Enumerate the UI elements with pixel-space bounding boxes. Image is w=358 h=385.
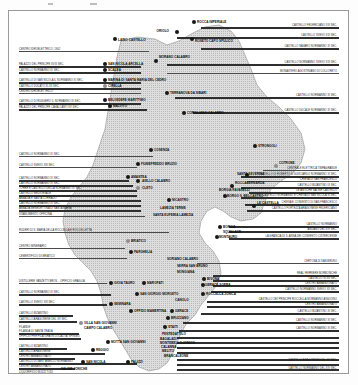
leader-line-left-0	[19, 51, 149, 52]
margin-label-left-33: CENTRO ABBANDONATO	[19, 365, 51, 368]
town-label-brancaleone: BRANCALEONE	[164, 355, 188, 358]
town-label-palizzi: PALIZZI	[131, 361, 143, 364]
town-label-campo-calabro: CAMPO CALABRO	[84, 327, 112, 330]
town-marker-13[interactable]	[149, 148, 153, 152]
margin-label-right-4: MONASTERO AGOSTINIANO DI COLLORETO	[280, 70, 337, 73]
margin-label-left-15: CASTELLO NORMANNO XI SEC.	[19, 202, 60, 205]
town-label-cotrone: COTRONE	[279, 162, 295, 165]
town-marker-11[interactable]	[108, 104, 112, 108]
town-label-aiello-calabro: AIELLO CALABRO	[142, 180, 170, 183]
leader-line-left-20	[19, 258, 127, 259]
town-marker-6[interactable]	[103, 68, 107, 72]
town-marker-43[interactable]	[126, 360, 130, 364]
town-marker-33[interactable]	[135, 292, 139, 296]
town-label-bruzzano: BRUZZANO	[171, 317, 189, 320]
town-marker-39[interactable]	[79, 321, 83, 325]
town-marker-16[interactable]	[274, 164, 278, 168]
leader-line-right-16	[229, 231, 339, 233]
margin-label-left-34: LIQUORIFICIO BOZZI TODI	[19, 371, 53, 374]
margin-label-left-27: FILANDA DI SANTA TRADA	[19, 330, 53, 333]
leader-line-right-29	[177, 342, 339, 344]
leader-line-left-9	[19, 167, 137, 168]
town-marker-30[interactable]	[109, 281, 113, 285]
town-label-motta-san-giovanni: MOTTA SAN GIOVANNI	[111, 341, 146, 344]
town-marker-27[interactable]	[126, 239, 130, 243]
town-marker-37[interactable]	[170, 309, 174, 313]
town-marker-2[interactable]	[190, 37, 194, 41]
margin-label-right-1: CASTELLO SVEVO XIII SEC.	[301, 34, 337, 37]
town-label-san-nicola-arcella: SAN NICOLA ARCELLA	[108, 63, 143, 66]
town-label-borgia: BORGIA	[223, 226, 236, 229]
town-label-scalea: SCALEA	[108, 69, 121, 72]
margin-label-left-23: CASTELLO SVEVO XIII SEC.	[19, 301, 55, 304]
town-marker-0[interactable]	[192, 20, 196, 24]
town-marker-29[interactable]	[202, 277, 206, 281]
margin-label-left-4: CASTELLO DUCATO XI-XII SEC.	[19, 85, 59, 88]
town-marker-4[interactable]	[154, 59, 158, 63]
margin-label-left-12: TORRE E CASTELLO DELLA NORMANNO XI SEC.	[19, 187, 82, 190]
town-label-bivona: BIVONA	[207, 278, 219, 281]
town-label-san-giorgio-morgeto: SAN GIORGIO MORGETO	[140, 293, 178, 296]
town-label-laino-castello: LAINO CASTELLO	[118, 39, 146, 42]
town-marker-21[interactable]	[230, 184, 234, 188]
town-marker-10[interactable]	[103, 98, 107, 102]
town-marker-1[interactable]	[175, 30, 179, 34]
margin-label-left-20: CEMENTIFICIO DI BRIATICO	[19, 255, 55, 258]
margin-label-right-29: CASTELLO NORMANNO DEL XIV SEC.	[288, 367, 337, 370]
town-marker-14[interactable]	[253, 144, 257, 148]
town-label-saline-joniche: SALINE JONICHE	[61, 368, 87, 371]
town-marker-36[interactable]	[129, 309, 133, 313]
town-label-cosenza: COSENZA	[154, 149, 169, 152]
town-marker-34[interactable]	[201, 292, 205, 296]
margin-label-right-5: CASTELLO NORMANNO XI SEC.	[296, 94, 337, 97]
town-marker-42[interactable]	[91, 348, 95, 352]
town-marker-5[interactable]	[103, 62, 107, 66]
leader-line-right-25	[201, 313, 339, 315]
town-marker-40[interactable]	[163, 325, 167, 329]
town-marker-8[interactable]	[103, 84, 107, 88]
margin-label-left-17: STABILIMENTO OFFICINA	[19, 213, 52, 216]
map-sheet: ROCCA IMPERIALEORIOLOROSETO CAPO SPULICO…	[0, 0, 358, 385]
town-marker-35[interactable]	[109, 302, 113, 306]
town-marker-25[interactable]	[218, 225, 222, 229]
margin-label-right-12: CASTELLO NORMANNO E CHIESA DI SAN NICOLA…	[263, 194, 337, 197]
margin-label-right-10: CASTELLO BIZANTINO IX SEC.	[298, 184, 337, 187]
plate-frame: ROCCA IMPERIALEORIOLOROSETO CAPO SPULICO…	[8, 10, 349, 374]
town-label-serra-san-bruno: SERRA SAN BRUNO	[177, 265, 208, 268]
town-marker-7[interactable]	[103, 78, 107, 82]
leader-line-left-24	[19, 315, 73, 317]
town-label-nicastro: NICASTRO	[172, 199, 188, 202]
town-marker-20[interactable]	[136, 186, 140, 190]
margin-label-right-23: CASTELLO DEI PRINCIPE ROCCELLA NORMANNO …	[259, 298, 337, 301]
leader-line-left-8	[19, 156, 153, 157]
margin-label-right-24: CENTRO ABBANDONATO	[305, 303, 337, 306]
town-label-borgo-s-belcastro: BORGO S. BELCASTRO	[227, 195, 263, 198]
leader-line-right-3	[167, 64, 339, 66]
town-marker-38[interactable]	[166, 316, 170, 320]
town-label-oppido-mamertina: OPPIDO MAMERTINA	[134, 310, 166, 313]
leader-line-left-16	[19, 210, 141, 212]
town-label-villa-san-giovanni: VILLA SAN GIOVANNI	[84, 322, 117, 325]
leader-line-left-19	[19, 248, 125, 249]
town-marker-9[interactable]	[165, 91, 169, 95]
town-marker-15[interactable]	[136, 162, 140, 166]
town-marker-12[interactable]	[182, 111, 186, 115]
town-label-cirella: CIRELLA	[108, 85, 122, 88]
margin-label-right-18: CERTOSA DI SAN BRUNO	[304, 260, 337, 263]
town-marker-31[interactable]	[142, 281, 146, 285]
town-marker-17[interactable]	[126, 175, 130, 179]
town-label-corigliano-calabro: CORIGLIANO CALABRO	[187, 112, 224, 115]
town-marker-28[interactable]	[129, 250, 133, 254]
town-marker-24[interactable]	[252, 204, 256, 208]
leader-line-left-2	[19, 72, 141, 74]
town-marker-23[interactable]	[167, 198, 171, 202]
town-label-fiumefreddo-bruzio: FIUMEFREDDO BRUZIO	[141, 163, 177, 166]
artifact-mark	[90, 3, 97, 5]
town-marker-44[interactable]	[81, 360, 85, 364]
town-label-morano-calabro: MORANO CALABRO	[159, 56, 190, 59]
town-marker-41[interactable]	[106, 340, 110, 344]
town-label-soriano-calabro: SORIANO CALABRO	[167, 258, 198, 261]
town-label-staiti: STAITI	[168, 326, 178, 329]
town-marker-3[interactable]	[113, 37, 117, 41]
leader-line-right-28	[177, 337, 339, 339]
